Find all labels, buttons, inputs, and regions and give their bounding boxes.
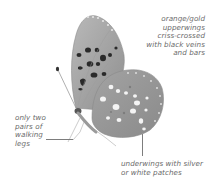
- annotation-line: or white patches: [121, 169, 211, 178]
- upperwings-annotation: orange/gold upperwings criss-crossed wit…: [139, 15, 205, 58]
- underwings-leader-line: [142, 134, 143, 156]
- annotation-line: legs: [15, 140, 55, 149]
- butterfly-diagram: orange/gold upperwings criss-crossed wit…: [0, 0, 217, 188]
- annotation-line: and bars: [139, 49, 205, 58]
- legs-annotation: only two pairs of walking legs: [15, 114, 55, 148]
- underwings-annotation: underwings with silver or white patches: [121, 160, 211, 177]
